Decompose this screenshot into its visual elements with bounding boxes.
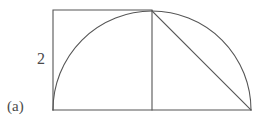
figure-container: 2 (a): [0, 0, 264, 121]
diagonal-line: [152, 11, 251, 110]
rectangle-outline: [53, 10, 152, 110]
part-label-a: (a): [7, 99, 24, 114]
dimension-label-2: 2: [37, 51, 45, 67]
